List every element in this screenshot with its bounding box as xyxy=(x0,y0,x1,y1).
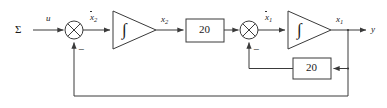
block-diagram: Σ u x2 ∫ x2 20 x1 ∫ x1 y 20 − − xyxy=(0,0,387,108)
tap-node-inner xyxy=(347,67,349,69)
x2-subscript: 2 xyxy=(165,18,168,25)
system-label-sigma: Σ xyxy=(15,24,21,35)
tap-node-x1 xyxy=(347,29,349,31)
minus-sign-inner-feedback: − xyxy=(253,44,259,55)
integrator-1-triangle xyxy=(113,11,156,49)
gain-feedback-value: 20 xyxy=(306,62,317,73)
signal-label-xdot2: x2 xyxy=(90,13,97,22)
signal-label-xdot1: x1 xyxy=(265,13,272,22)
integral-icon-1: ∫ xyxy=(122,21,127,38)
xdot1-subscript: 1 xyxy=(269,16,272,23)
x1-subscript: 1 xyxy=(340,18,343,25)
minus-sign-outer-feedback: − xyxy=(78,44,84,55)
signal-label-y: y xyxy=(371,25,375,34)
xdot2-subscript: 2 xyxy=(94,16,97,23)
integrator-2-triangle xyxy=(288,11,331,49)
integral-icon-2: ∫ xyxy=(297,21,302,38)
diagram-canvas xyxy=(0,0,387,108)
signal-label-u: u xyxy=(46,14,51,23)
signal-label-x1: x1 xyxy=(336,15,343,24)
gain-forward-value: 20 xyxy=(199,24,210,35)
signal-label-x2: x2 xyxy=(161,15,168,24)
